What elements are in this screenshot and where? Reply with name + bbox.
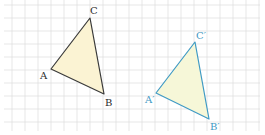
vertex-label-b: B — [105, 97, 112, 108]
vertex-label-a-prime: A′ — [144, 94, 155, 105]
vertex-label-c-prime: C′ — [196, 30, 207, 41]
translation-diagram: A B C A′ B′ C′ — [0, 0, 265, 135]
vertex-label-c: C — [90, 5, 98, 16]
vertex-label-b-prime: B′ — [210, 121, 220, 132]
triangle-abc — [51, 18, 104, 94]
grid-paper — [4, 0, 260, 131]
vertex-label-a: A — [39, 70, 48, 81]
triangle-a-prime-b-prime-c-prime — [156, 42, 209, 119]
